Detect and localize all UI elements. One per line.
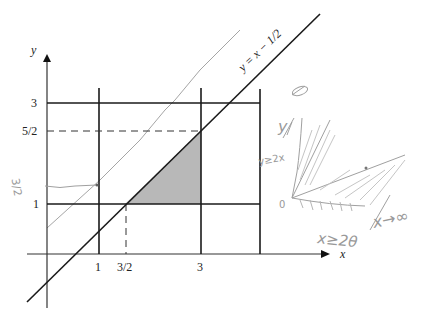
y-axis-label: y: [30, 43, 37, 57]
x-tick-3-2: 3/2: [117, 260, 132, 274]
handwritten-y: y: [277, 117, 288, 136]
handwritten-three-halves: 3/2: [8, 177, 24, 197]
integration-region-diagram: y x 3 5/2 1 1 3/2 3 y = x − 1/2 3/2 y y≥…: [0, 0, 422, 325]
y-tick-5-2: 5/2: [22, 124, 37, 138]
x-tick-3: 3: [197, 260, 203, 274]
y-tick-3: 3: [31, 96, 37, 110]
handwritten-x-infinity: x→∞: [370, 206, 410, 232]
handwritten-origin: 0: [279, 199, 285, 210]
x-axis-arrow-icon: [321, 250, 330, 258]
x-tick-1: 1: [95, 260, 101, 274]
pencil-arrow-left: [45, 185, 97, 188]
y-tick-1: 1: [33, 197, 39, 211]
handwritten-x-geq-2theta: x≥2θ: [316, 229, 359, 251]
line-label: y = x − 1/2: [235, 26, 284, 74]
y-axis-arrow-icon: [43, 54, 51, 62]
handwritten-inequality: y≥2x: [257, 152, 285, 167]
